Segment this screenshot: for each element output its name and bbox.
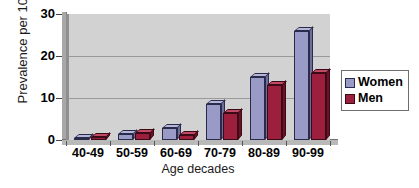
bar-men-40-49[interactable] (91, 137, 106, 140)
x-tick-mark-end (330, 141, 331, 146)
x-axis-title: Age decades (66, 162, 330, 176)
bar-men-50-59[interactable] (135, 133, 150, 140)
plot-area (66, 14, 330, 140)
legend-swatch-women-icon (345, 78, 355, 88)
bar-face (267, 85, 282, 140)
bar-face (162, 128, 177, 140)
bar-men-80-89[interactable] (267, 85, 282, 140)
bar-side (326, 68, 330, 140)
bar-face (311, 73, 326, 140)
y-tick-mark-30 (56, 14, 62, 15)
bar-women-80-89[interactable] (250, 77, 265, 140)
x-tick-mark-3 (198, 141, 199, 146)
bar-face (179, 135, 194, 140)
x-tick-label-60-69: 60-69 (153, 146, 199, 160)
bar-side (238, 108, 242, 140)
x-tick-mark-0 (66, 141, 67, 146)
y-tick-mark-10 (56, 98, 62, 99)
legend-swatch-men-icon (345, 94, 355, 104)
bar-women-60-69[interactable] (162, 128, 177, 140)
x-tick-mark-1 (110, 141, 111, 146)
bar-face (135, 133, 150, 140)
bar-face (91, 137, 106, 140)
x-tick-label-80-89: 80-89 (241, 146, 287, 160)
bar-face (250, 77, 265, 140)
x-tick-label-90-99: 90-99 (285, 146, 331, 160)
y-tick-label-20: 20 (29, 48, 55, 63)
x-tick-mark-4 (242, 141, 243, 146)
x-tick-mark-5 (286, 141, 287, 146)
legend-item-men[interactable]: Men (345, 91, 403, 106)
bar-face (206, 104, 221, 140)
x-tick-label-50-59: 50-59 (109, 146, 155, 160)
bar-face (118, 134, 133, 140)
bar-face (74, 138, 89, 140)
bar-face (294, 31, 309, 140)
legend-label-men: Men (358, 91, 383, 106)
bar-women-40-49[interactable] (74, 138, 89, 140)
bar-men-70-79[interactable] (223, 113, 238, 140)
legend-item-women[interactable]: Women (345, 75, 403, 90)
bar-women-70-79[interactable] (206, 104, 221, 140)
bar-face (223, 113, 238, 140)
bar-side (282, 80, 286, 140)
bars-layer (69, 14, 330, 140)
bar-men-60-69[interactable] (179, 135, 194, 140)
y-tick-label-10: 10 (29, 90, 55, 105)
legend: Women Men (341, 70, 409, 111)
y-axis-title: Prevalence per 1000 (15, 0, 30, 114)
bar-women-90-99[interactable] (294, 31, 309, 140)
y-tick-label-0: 0 (29, 132, 55, 147)
legend-label-women: Women (358, 75, 403, 90)
y-tick-label-30: 30 (29, 6, 55, 21)
y-tick-mark-20 (56, 56, 62, 57)
bar-men-90-99[interactable] (311, 73, 326, 140)
x-tick-label-70-79: 70-79 (197, 146, 243, 160)
x-tick-label-40-49: 40-49 (65, 146, 111, 160)
bar-women-50-59[interactable] (118, 134, 133, 140)
x-tick-mark-2 (154, 141, 155, 146)
y-tick-mark-0 (56, 140, 62, 141)
bar-chart: Prevalence per 1000 0102030 40-4950-5960… (0, 0, 419, 188)
